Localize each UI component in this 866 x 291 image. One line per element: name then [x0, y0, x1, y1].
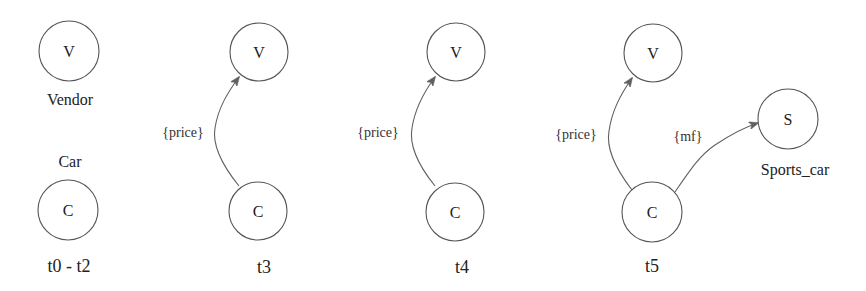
node-vendor: V	[39, 21, 99, 81]
edge-label-mf: {mf}	[674, 129, 703, 144]
node-letter: S	[784, 111, 793, 128]
node-letter: V	[253, 44, 265, 61]
panel-t5: V {price} {mf} C S Sports_car t5	[555, 24, 830, 276]
node-car: C	[426, 183, 484, 241]
schema-evolution-diagram: V Vendor Car C t0 - t2 V {price} C t3 V …	[0, 0, 866, 291]
edge-price	[411, 77, 435, 186]
time-label: t0 - t2	[48, 256, 91, 276]
panel-t0-t2: V Vendor Car C t0 - t2	[38, 21, 99, 276]
node-vendor: V	[230, 23, 288, 81]
edge-label-price: {price}	[357, 125, 398, 140]
node-vendor: V	[624, 24, 682, 82]
time-label: t5	[645, 256, 659, 276]
node-letter: C	[63, 202, 74, 219]
node-label-vendor: Vendor	[47, 91, 94, 108]
node-car: C	[622, 182, 682, 242]
node-car: C	[38, 180, 98, 240]
edge-price	[214, 77, 239, 186]
time-label: t4	[455, 257, 469, 277]
node-sports-car: S	[758, 89, 818, 149]
node-car: C	[229, 182, 287, 240]
edge-label-price: {price}	[555, 127, 596, 142]
panel-t3: V {price} C t3	[162, 23, 288, 277]
node-letter: V	[647, 45, 659, 62]
edge-price	[608, 78, 632, 190]
node-letter: C	[647, 204, 658, 221]
node-letter: V	[63, 43, 75, 60]
node-vendor: V	[427, 23, 485, 81]
node-letter: C	[253, 203, 264, 220]
edge-label-price: {price}	[162, 125, 203, 140]
time-label: t3	[257, 257, 271, 277]
node-label-sports-car: Sports_car	[761, 161, 830, 179]
panel-t4: V {price} C t4	[357, 23, 485, 277]
node-letter: C	[450, 204, 461, 221]
node-label-car: Car	[58, 153, 82, 170]
node-letter: V	[450, 44, 462, 61]
